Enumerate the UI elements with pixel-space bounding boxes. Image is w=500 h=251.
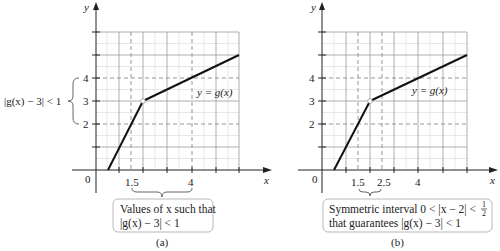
- y-tick-4: 4: [83, 72, 89, 84]
- box-line-2: |g(x) − 3| < 1: [120, 217, 180, 230]
- panel-b: y x 0 1.5 2.5 4 4 3 2 y = g(x) Symmetric…: [298, 1, 498, 249]
- y-axis-arrow-icon: [319, 2, 325, 10]
- y-tick-3: 3: [309, 95, 315, 107]
- x-tick-4: 4: [415, 176, 421, 188]
- x-axis-arrow-icon: [489, 167, 498, 173]
- y-axis-label: y: [310, 1, 316, 13]
- svg-text:2: 2: [482, 209, 486, 218]
- open-point: [141, 99, 146, 104]
- svg-text:1: 1: [482, 200, 486, 209]
- box-line-1: Symmetric interval 0 < |x − 2| <: [329, 203, 476, 216]
- box-line-2: that guarantees |g(x) − 3| < 1: [329, 217, 461, 230]
- caption-b: (b): [391, 236, 404, 249]
- left-brace-label: |g(x) − 3| < 1: [4, 95, 61, 108]
- origin-label: 0: [312, 173, 318, 185]
- curve-label: y = g(x): [411, 84, 448, 97]
- y-tick-4: 4: [309, 72, 315, 84]
- panel-a: y x 0 1.5 4 4 3 2 y = g(x) |g(x) − 3| < …: [4, 1, 272, 249]
- figure: y x 0 1.5 4 4 3 2 y = g(x) |g(x) − 3| < …: [0, 0, 500, 251]
- ticks: [318, 32, 467, 173]
- open-point: [368, 99, 373, 104]
- bottom-brace-icon: [132, 188, 192, 197]
- y-tick-3: 3: [83, 95, 89, 107]
- x-axis-label: x: [263, 174, 269, 186]
- x-tick-4: 4: [188, 176, 194, 188]
- curve-label: y = g(x): [196, 86, 233, 99]
- y-tick-2: 2: [309, 118, 315, 130]
- x-tick-1-5: 1.5: [125, 176, 139, 188]
- x-axis-label: x: [489, 174, 495, 186]
- box-line-1: Values of x such that: [120, 203, 217, 215]
- x-axis-arrow-icon: [263, 167, 272, 173]
- x-tick-1-5: 1.5: [351, 176, 365, 188]
- caption-a: (a): [156, 236, 169, 249]
- x-tick-2-5: 2.5: [377, 176, 391, 188]
- y-axis-arrow-icon: [93, 2, 99, 10]
- ticks: [92, 32, 239, 173]
- left-brace-icon: [68, 78, 79, 124]
- y-axis-label: y: [83, 1, 89, 13]
- origin-label: 0: [85, 173, 91, 185]
- bottom-brace-icon: [359, 189, 381, 196]
- y-tick-2: 2: [83, 118, 89, 130]
